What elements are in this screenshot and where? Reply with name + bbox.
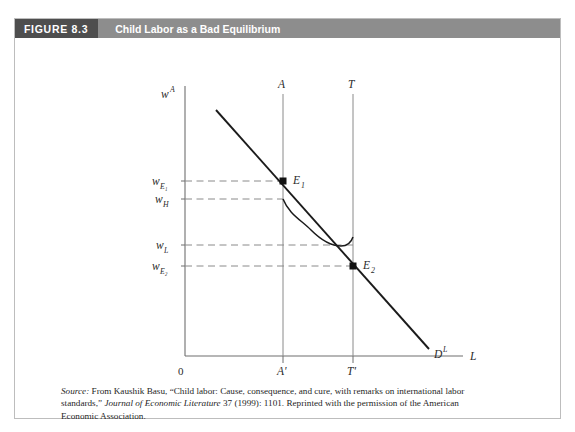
figure-header: FIGURE 8.3 Child Labor as a Bad Equilibr… bbox=[15, 19, 560, 38]
caption-line-2: standards,” Journal of Economic Literatu… bbox=[61, 397, 523, 409]
caption-line-1: Source: From Kaushik Basu, “Child labor:… bbox=[61, 385, 523, 397]
vertical-line-label-A: A bbox=[277, 78, 286, 90]
wage-label-wL-subscript: L bbox=[163, 246, 168, 255]
equilibrium-label-E1-subscript: 1 bbox=[301, 181, 305, 190]
figure-source-caption: Source: From Kaushik Basu, “Child labor:… bbox=[61, 385, 523, 422]
caption-journal-title: Journal of Economic Literature bbox=[104, 398, 220, 408]
y-axis-label-superscript: A bbox=[169, 85, 175, 94]
vertical-line-label-T: T bbox=[348, 78, 356, 90]
caption-line-1-text: From Kaushik Basu, “Child labor: Cause, … bbox=[89, 386, 464, 396]
equilibrium-label-E2-subscript: 2 bbox=[371, 266, 375, 275]
equilibrium-point-E1 bbox=[280, 178, 287, 185]
figure-container: FIGURE 8.3 Child Labor as a Bad Equilibr… bbox=[14, 18, 561, 419]
wage-label-wE1-base: w bbox=[152, 175, 160, 187]
figure-number-label: FIGURE 8.3 bbox=[15, 19, 98, 38]
caption-line-2-post: 37 (1999): 1101. Reprinted with the perm… bbox=[221, 398, 459, 408]
wage-label-wE2-subscript: E₂ bbox=[159, 267, 168, 276]
wage-label-wL-base: w bbox=[156, 239, 164, 251]
y-axis-label-base: w bbox=[161, 88, 169, 100]
caption-source-word: Source: bbox=[61, 386, 89, 396]
figure-title: Child Labor as a Bad Equilibrium bbox=[98, 19, 280, 38]
equilibrium-label-E2-base: E bbox=[362, 259, 370, 271]
equilibrium-point-E2 bbox=[350, 263, 357, 270]
x-tick-label-T-prime: T' bbox=[347, 365, 356, 376]
demand-curve-label-superscript: L bbox=[442, 345, 447, 354]
caption-line-2-pre: standards,” bbox=[61, 398, 104, 408]
labor-supply-curve bbox=[283, 199, 353, 246]
equilibrium-label-E1-base: E bbox=[292, 174, 300, 186]
origin-label: 0 bbox=[178, 365, 184, 376]
demand-curve-label-base: D bbox=[433, 348, 443, 360]
wage-label-wE2-base: w bbox=[152, 260, 160, 272]
x-tick-label-A-prime: A' bbox=[276, 365, 287, 376]
labor-demand-curve bbox=[216, 110, 429, 349]
wage-label-wE1-subscript: E₁ bbox=[159, 182, 168, 191]
x-axis-label: L bbox=[469, 350, 476, 362]
plot-area: w A A T w E₁ w H w L w E₂ E 1 E 2 D L 0 … bbox=[15, 38, 560, 376]
wage-label-wH-subscript: H bbox=[162, 200, 169, 209]
wage-label-wH-base: w bbox=[155, 193, 163, 205]
caption-line-3: Economic Association. bbox=[61, 410, 523, 422]
figure-chart-svg: w A A T w E₁ w H w L w E₂ E 1 E 2 D L 0 … bbox=[15, 38, 562, 376]
